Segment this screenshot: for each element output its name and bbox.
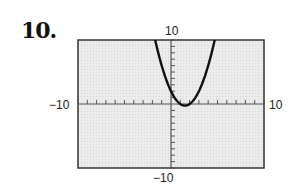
graph-plot	[0, 0, 293, 189]
